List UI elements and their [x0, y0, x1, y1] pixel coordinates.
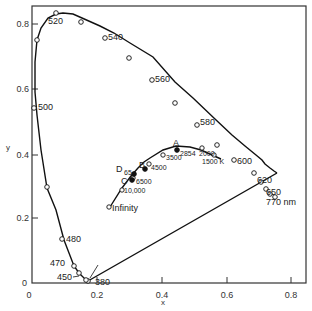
label-580: 580: [200, 117, 215, 127]
illuminant-C-marker: [130, 178, 135, 183]
label-540: 540: [108, 32, 123, 42]
label-770nm: 770 nm: [266, 197, 296, 207]
label-6500: 6500: [136, 178, 152, 185]
illuminant-D65-marker: [132, 172, 137, 177]
chromaticity-diagram: 0 0.2 0.4 0.6 0.8 x 0 0.2 0.4 0.6 0.8 y: [0, 0, 312, 311]
y-tick-0.2: 0.2: [16, 213, 29, 223]
label-560: 560: [155, 74, 170, 84]
label-2000: 2000: [199, 150, 215, 157]
label-10000: 10,000: [124, 187, 146, 194]
y-tick-0.6: 0.6: [16, 84, 29, 94]
label-2854: 2854: [180, 150, 196, 157]
y-tick-0.4: 0.4: [16, 150, 29, 160]
line-of-purples: [88, 173, 277, 281]
x-axis: [97, 277, 291, 283]
label-620: 620: [257, 175, 272, 185]
label-4500: 4500: [151, 164, 167, 171]
x-tick-0: 0: [26, 290, 31, 300]
label-650: 650: [266, 187, 281, 197]
label-illuminant-D: D: [116, 164, 123, 174]
label-470: 470: [50, 258, 65, 268]
label-480: 480: [66, 234, 81, 244]
x-axis-title: x: [161, 298, 165, 307]
label-illuminant-C: C: [121, 176, 128, 186]
label-illuminant-D-sub: 65: [124, 169, 132, 176]
x-tick-0.6: 0.6: [221, 290, 234, 300]
label-illuminant-A: A: [173, 138, 179, 148]
label-450: 450: [57, 272, 72, 282]
y-tick-0: 0: [22, 278, 27, 288]
label-infinity: Infinity: [112, 203, 139, 213]
y-tick-0.8: 0.8: [16, 19, 29, 29]
label-3500: 3500: [166, 154, 182, 161]
label-500: 500: [38, 102, 53, 112]
y-axis-title: y: [6, 143, 10, 152]
x-tick-0.8: 0.8: [285, 290, 298, 300]
x-tick-0.2: 0.2: [91, 290, 104, 300]
label-380: 380: [95, 277, 110, 287]
label-520: 520: [48, 16, 63, 26]
label-illuminant-B: B: [139, 160, 145, 170]
label-1500K: 1500 K: [202, 158, 225, 165]
label-600: 600: [237, 156, 252, 166]
illuminant-A-marker: [175, 148, 180, 153]
arrow-450: [73, 276, 79, 277]
